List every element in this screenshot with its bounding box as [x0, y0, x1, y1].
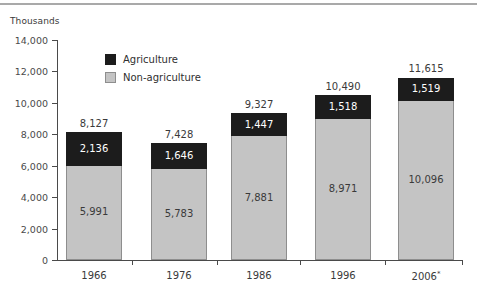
x-tick-mark — [132, 260, 133, 265]
y-tick-mark — [52, 229, 57, 230]
bar-total-label: 10,490 — [326, 81, 361, 92]
y-tick-mark — [52, 40, 57, 41]
bar-segment-agriculture[interactable]: 1,447 — [231, 113, 287, 136]
y-tick-label: 6,000 — [21, 160, 48, 171]
y-tick-label: 12,000 — [15, 66, 48, 77]
y-tick-mark — [52, 71, 57, 72]
x-tick-label: 1986 — [246, 270, 271, 281]
y-axis-line — [57, 40, 58, 260]
y-tick-label: 4,000 — [21, 192, 48, 203]
unit-caption: Thousands — [10, 16, 60, 26]
bar-value-label-non-agriculture: 5,991 — [80, 207, 109, 217]
y-tick-label: 14,000 — [15, 35, 48, 46]
x-axis-line — [57, 260, 462, 261]
y-tick-label: 10,000 — [15, 97, 48, 108]
bar-value-label-non-agriculture: 10,096 — [409, 175, 444, 185]
bar-value-label-agriculture: 2,136 — [80, 144, 109, 154]
legend-swatch-agriculture-icon — [105, 54, 116, 65]
y-tick-label: 8,000 — [21, 129, 48, 140]
chart-legend: Agriculture Non-agriculture — [105, 52, 201, 88]
bar-total-label: 7,428 — [165, 129, 194, 140]
legend-swatch-non-agriculture-icon — [105, 72, 116, 83]
bar-segment-agriculture[interactable]: 1,646 — [151, 143, 207, 169]
x-tick-mark — [300, 260, 301, 265]
x-tick-label: 1966 — [81, 270, 106, 281]
y-tick-mark — [52, 197, 57, 198]
bar-value-label-agriculture: 1,519 — [412, 84, 441, 94]
bar-segment-agriculture[interactable]: 1,519 — [398, 78, 454, 102]
y-tick-mark — [52, 134, 57, 135]
y-tick-mark — [52, 166, 57, 167]
y-tick-label: 2,000 — [21, 223, 48, 234]
bar-column[interactable]: 5,7831,6467,428 — [151, 143, 207, 260]
x-tick-mark — [217, 260, 218, 265]
bar-value-label-non-agriculture: 5,783 — [165, 209, 194, 219]
chart-figure: Thousands 02,0004,0006,0008,00010,00012,… — [0, 0, 477, 296]
bar-column[interactable]: 5,9912,1368,127 — [66, 132, 122, 260]
bar-segment-agriculture[interactable]: 1,518 — [315, 95, 371, 119]
bar-segment-non-agriculture[interactable]: 5,783 — [151, 169, 207, 260]
bar-value-label-agriculture: 1,518 — [329, 102, 358, 112]
bar-total-label: 11,615 — [409, 63, 444, 74]
legend-item-non-agriculture: Non-agriculture — [105, 70, 201, 85]
bar-value-label-agriculture: 1,646 — [165, 151, 194, 161]
x-tick-label: 2006* — [412, 270, 441, 282]
bar-column[interactable]: 7,8811,4479,327 — [231, 113, 287, 260]
footnote-marker: * — [437, 270, 441, 278]
bar-segment-non-agriculture[interactable]: 10,096 — [398, 101, 454, 260]
bar-segment-non-agriculture[interactable]: 7,881 — [231, 136, 287, 260]
x-tick-mark — [462, 260, 463, 265]
y-tick-label: 0 — [42, 255, 48, 266]
top-divider-rule — [0, 3, 477, 5]
bar-segment-non-agriculture[interactable]: 8,971 — [315, 119, 371, 260]
bar-value-label-non-agriculture: 7,881 — [245, 193, 274, 203]
bar-column[interactable]: 8,9711,51810,490 — [315, 95, 371, 260]
x-tick-label: 1976 — [166, 270, 191, 281]
bar-value-label-non-agriculture: 8,971 — [329, 184, 358, 194]
bar-total-label: 9,327 — [245, 99, 274, 110]
bar-column[interactable]: 10,0961,51911,615 — [398, 77, 454, 260]
x-tick-label: 1996 — [330, 270, 355, 281]
bar-value-label-agriculture: 1,447 — [245, 120, 274, 130]
bar-total-label: 8,127 — [80, 118, 109, 129]
bar-segment-non-agriculture[interactable]: 5,991 — [66, 166, 122, 260]
x-tick-mark — [385, 260, 386, 265]
y-tick-mark — [52, 103, 57, 104]
bar-segment-agriculture[interactable]: 2,136 — [66, 132, 122, 166]
legend-item-agriculture: Agriculture — [105, 52, 201, 67]
y-tick-mark — [52, 260, 57, 261]
legend-label-agriculture: Agriculture — [123, 54, 178, 65]
legend-label-non-agriculture: Non-agriculture — [123, 72, 201, 83]
